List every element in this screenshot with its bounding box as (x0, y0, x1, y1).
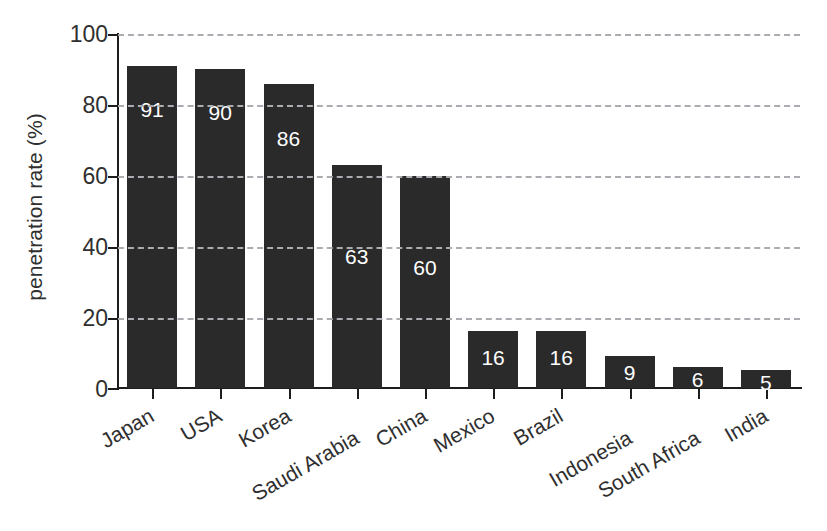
y-tick-label-60: 60 (54, 165, 108, 188)
x-tick-mark (220, 388, 222, 399)
bar[interactable]: 60 (400, 176, 450, 388)
y-tick-label-100: 100 (54, 23, 108, 46)
chart-title-remnant (0, 0, 827, 8)
y-tick-label-20: 20 (54, 307, 108, 330)
bar-value-label: 9 (605, 362, 655, 383)
bar-value-label: 90 (195, 102, 245, 123)
bar-value-label: 6 (673, 369, 723, 390)
y-tick-label-80: 80 (54, 94, 108, 117)
bar-value-label: 5 (741, 372, 791, 393)
bars-layer: 91908663601616965 (118, 34, 800, 388)
bar[interactable]: 90 (195, 69, 245, 388)
y-tick-label-0: 0 (54, 378, 108, 401)
bar[interactable]: 16 (468, 331, 518, 388)
bar[interactable]: 86 (264, 84, 314, 388)
x-tick-mark (152, 388, 154, 399)
y-tick-label-40: 40 (54, 236, 108, 259)
bar[interactable]: 6 (673, 367, 723, 388)
bar-value-label: 86 (264, 128, 314, 149)
x-tick-mark (630, 388, 632, 399)
bar-chart: penetration rate (%) 100 80 60 40 20 0 9… (0, 0, 827, 531)
x-tick-mark (357, 388, 359, 399)
bar[interactable]: 5 (741, 370, 791, 388)
x-tick-mark (561, 388, 563, 399)
bar-value-label: 16 (536, 347, 586, 368)
bar-value-label: 60 (400, 257, 450, 278)
bar-value-label: 16 (468, 347, 518, 368)
x-tick-mark (493, 388, 495, 399)
bar-value-label: 91 (127, 99, 177, 120)
bar[interactable]: 16 (536, 331, 586, 388)
x-tick-mark (425, 388, 427, 399)
x-tick-mark (289, 388, 291, 399)
bar-value-label: 63 (332, 246, 382, 267)
bar[interactable]: 63 (332, 165, 382, 388)
bar[interactable]: 9 (605, 356, 655, 388)
bar[interactable]: 91 (127, 66, 177, 388)
